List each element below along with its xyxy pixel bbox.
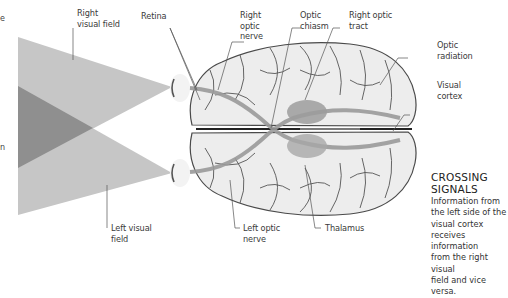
label-right-optic-tract: Right optic tract bbox=[349, 10, 392, 31]
sidebar-title: CROSSING SIGNALS bbox=[431, 171, 488, 195]
label-optic-chiasm: Optic chiasm bbox=[300, 10, 329, 31]
label-left-optic-nerve: Left optic nerve bbox=[243, 223, 280, 244]
left-eye-icon bbox=[170, 159, 190, 187]
cut-off-text-top: e bbox=[0, 14, 5, 23]
label-thalamus: Thalamus bbox=[325, 223, 364, 234]
label-left-visual-field: Left visual field bbox=[111, 223, 152, 244]
label-visual-cortex: Visual cortex bbox=[437, 80, 462, 101]
label-optic-radiation: Optic radiation bbox=[437, 40, 473, 61]
thalamus-shape bbox=[287, 100, 327, 124]
sidebar-body: Information from the left side of the vi… bbox=[431, 196, 508, 298]
label-right-visual-field: Right visual field bbox=[77, 8, 120, 29]
label-right-optic-nerve: Right optic nerve bbox=[240, 10, 263, 42]
right-eye-icon bbox=[170, 74, 190, 102]
cut-off-text-mid: n bbox=[0, 143, 5, 152]
label-retina: Retina bbox=[141, 11, 166, 22]
